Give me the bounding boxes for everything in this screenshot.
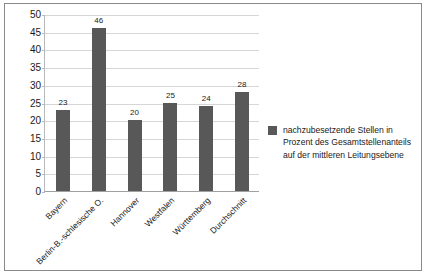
bar-slot: 24Württemberg	[188, 15, 224, 191]
bar[interactable]	[199, 106, 213, 191]
bar[interactable]	[128, 120, 142, 191]
bar-value-label: 46	[94, 17, 103, 25]
y-axis-tick-label: 25	[30, 99, 41, 109]
legend-line: Prozent des Gesamtstellenanteils	[283, 137, 411, 147]
x-axis-category-label: Württemberg	[171, 196, 212, 237]
y-axis-tick-label: 15	[30, 134, 41, 144]
x-axis-category-label: Berlin-B.-schlesische O.	[35, 196, 105, 266]
y-axis-tick-label: 40	[30, 45, 41, 55]
bar[interactable]	[235, 92, 249, 191]
legend-line: nachzubesetzende Stellen in	[283, 125, 393, 135]
y-axis-tick-label: 10	[30, 152, 41, 162]
bar-value-label: 25	[166, 92, 175, 100]
y-axis-tick-label: 30	[30, 81, 41, 91]
y-axis-tick-mark	[42, 192, 45, 193]
bar-value-label: 24	[202, 95, 211, 103]
bar-slot: 25Westfalen	[153, 15, 189, 191]
bar-slot: 46Berlin-B.-schlesische O.	[81, 15, 117, 191]
bar[interactable]	[163, 103, 177, 192]
bar-slot: 23Bayern	[45, 15, 81, 191]
y-axis-tick-label: 35	[30, 63, 41, 73]
chart-legend: nachzubesetzende Stellen inProzent des G…	[268, 124, 418, 161]
y-axis-tick-label: 50	[30, 10, 41, 20]
bar-series: 23Bayern46Berlin-B.-schlesische O.20Hann…	[45, 15, 259, 191]
x-axis-category-label: Westfalen	[144, 196, 177, 229]
chart-frame: 05101520253035404550 23Bayern46Berlin-B.…	[4, 3, 422, 271]
bar-value-label: 23	[58, 99, 67, 107]
bar[interactable]	[56, 110, 70, 191]
x-axis-category-label: Bayern	[44, 196, 69, 221]
x-axis-category-label: Durchschnitt	[209, 196, 248, 235]
bar-value-label: 20	[130, 109, 139, 117]
y-axis-tick-label: 5	[35, 169, 41, 179]
bar-value-label: 28	[238, 81, 247, 89]
bar-slot: 20Hannover	[117, 15, 153, 191]
y-axis-tick-label: 45	[30, 28, 41, 38]
legend-swatch-icon	[268, 126, 277, 135]
legend-line: auf der mittleren Leitungsebene	[283, 150, 404, 160]
x-axis-category-label: Hannover	[108, 196, 140, 228]
y-axis-tick-label: 20	[30, 116, 41, 126]
y-axis-tick-label: 0	[35, 187, 41, 197]
bar[interactable]	[92, 28, 106, 191]
bar-slot: 28Durchschnitt	[224, 15, 260, 191]
legend-label: nachzubesetzende Stellen inProzent des G…	[283, 124, 411, 161]
plot-area: 05101520253035404550 23Bayern46Berlin-B.…	[44, 15, 259, 192]
